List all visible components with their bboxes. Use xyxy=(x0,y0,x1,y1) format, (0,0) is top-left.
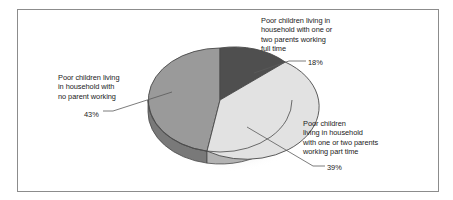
slice-percent-part-time: 39% xyxy=(327,163,342,172)
slice-label-part-time: Poor children living in household with o… xyxy=(303,119,415,156)
slice-percent-no-parent-working: 43% xyxy=(84,110,99,119)
chart-screenshot: Poor children living in household with o… xyxy=(0,0,453,200)
slice-label-full-time: Poor children living in household with o… xyxy=(261,16,367,53)
slice-label-no-parent-working: Poor children living in household with n… xyxy=(58,73,166,101)
slice-percent-full-time: 18% xyxy=(308,58,323,67)
